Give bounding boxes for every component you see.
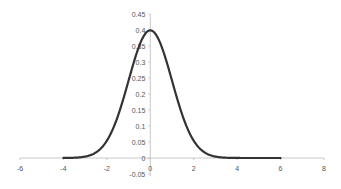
y-tick-label: -0.05 — [129, 171, 145, 178]
y-tick-label: 0.25 — [132, 75, 146, 82]
x-tick-label: 8 — [322, 165, 326, 172]
y-tick-label: 0 — [141, 155, 145, 162]
x-tick-label: -2 — [104, 165, 110, 172]
y-tick-label: 0.3 — [136, 59, 146, 66]
density-curve — [63, 30, 280, 158]
axes — [20, 14, 324, 176]
y-tick-label: 0.45 — [132, 11, 146, 18]
x-tick-label: 0 — [148, 165, 152, 172]
y-tick-label: 0.05 — [132, 139, 146, 146]
x-tick-label: 6 — [279, 165, 283, 172]
tick-labels: -6-4-202468-0.0500.050.10.150.20.250.30.… — [17, 11, 326, 178]
y-tick-label: 0.15 — [132, 107, 146, 114]
x-tick-label: -6 — [17, 165, 23, 172]
y-tick-label: 0.1 — [136, 123, 146, 130]
normal-distribution-chart: -6-4-202468-0.0500.050.10.150.20.250.30.… — [0, 0, 341, 189]
y-tick-label: 0.2 — [136, 91, 146, 98]
y-tick-label: 0.4 — [136, 27, 146, 34]
x-tick-label: 2 — [192, 165, 196, 172]
x-tick-label: -4 — [60, 165, 66, 172]
x-tick-label: 4 — [235, 165, 239, 172]
chart-svg: -6-4-202468-0.0500.050.10.150.20.250.30.… — [0, 0, 341, 189]
